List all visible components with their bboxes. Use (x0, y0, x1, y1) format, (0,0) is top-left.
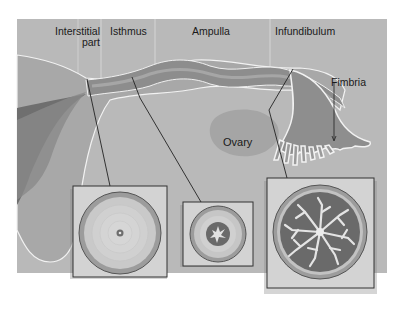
label-ampulla: Ampulla (192, 26, 230, 37)
label-interstitial: Interstitial part (50, 26, 100, 48)
label-fimbria: Fimbria (331, 77, 366, 88)
label-isthmus: Isthmus (110, 26, 147, 37)
label-interstitial-line2: part (50, 37, 100, 48)
ovary-shape (210, 109, 279, 156)
label-ovary: Ovary (223, 137, 252, 148)
label-infundibulum: Infundibulum (275, 26, 335, 37)
diagram-canvas: Interstitial part Isthmus Ampulla Infund… (0, 0, 400, 314)
